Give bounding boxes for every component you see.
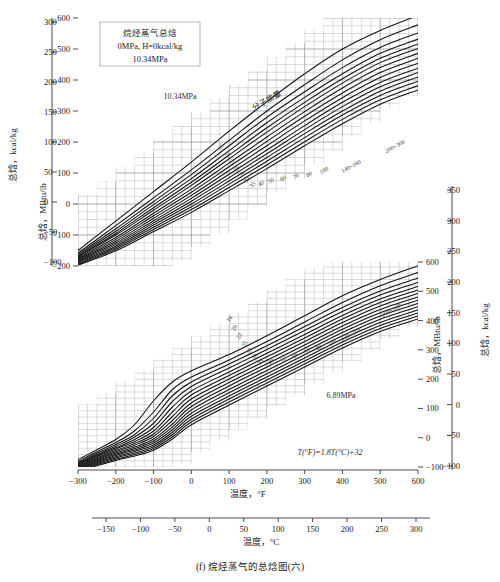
enthalpy-chart-figure: 162022252830354050607080100140~160200~30… (0, 0, 500, 582)
y-tick-label: 500 (57, 44, 70, 54)
mw-label-140~160: 140~160 (340, 159, 362, 174)
mw-label-25: 25 (240, 340, 248, 348)
y-tick-label: −100 (426, 462, 444, 472)
x-axis-c-title: 温度，°C (243, 536, 280, 547)
top-pressure-label: 10.34MPa (163, 92, 197, 101)
bottom-panel-grid (78, 262, 418, 467)
mw-label-16: 16 (225, 315, 233, 323)
y-axis-top-kcal-title: 总焓，kcal/kg (7, 128, 18, 182)
y-tick-label: −100 (52, 230, 70, 240)
y-tick-label: 50 (452, 369, 461, 379)
mw-label-35: 35 (248, 180, 256, 188)
y-tick-label: 600 (57, 13, 70, 23)
x-tick-label: 200 (341, 524, 354, 534)
y-axis-bottom-kcal: −100−50050100150200250300350 总焓，kcal/kg (442, 185, 490, 471)
y-tick-label: 100 (426, 403, 439, 413)
y-tick-label: 50 (44, 167, 53, 177)
y-tick-label: −100 (442, 461, 460, 471)
mw-label-200~300: 200~300 (384, 139, 406, 154)
mw-label-50: 50 (267, 176, 275, 184)
y-tick-label: 300 (447, 216, 460, 226)
y-tick-label: 200 (44, 77, 57, 87)
x-tick-label: 500 (374, 476, 387, 486)
info-box-line1: 烷烃蒸气总焓 (123, 28, 177, 38)
y-tick-label: 400 (57, 75, 70, 85)
x-tick-label: 300 (410, 524, 423, 534)
info-box-line2: 0MPa, H=0kcal/kg (118, 41, 184, 51)
mw-label-22: 22 (235, 332, 243, 340)
y-tick-label: 250 (447, 246, 460, 256)
x-axis-fahrenheit: −300−200−1000100200300400500600 温度，°F (69, 470, 424, 499)
x-tick-label: 100 (272, 524, 285, 534)
y-tick-label: 500 (426, 286, 439, 296)
x-tick-label: 250 (375, 524, 388, 534)
y-tick-label: 100 (447, 338, 460, 348)
y-tick-label: −200 (52, 261, 70, 271)
y-tick-label: 150 (447, 308, 460, 318)
x-tick-label: −100 (145, 476, 163, 486)
x-tick-label: −200 (107, 476, 125, 486)
mw-label-100: 100 (319, 165, 330, 175)
x-tick-label: 100 (223, 476, 236, 486)
x-tick-label: 200 (261, 476, 274, 486)
x-axis-celsius: −150−100−50050100150200250300 温度，°C (92, 518, 430, 547)
conversion-formula: T(°F)=1.8T(°C)+32 (298, 448, 363, 457)
y-tick-label: 0 (66, 199, 70, 209)
mw-label-20: 20 (230, 324, 238, 332)
mw-label-70: 70 (292, 172, 300, 180)
info-box-line3: 10.34MPa (132, 54, 167, 64)
y-tick-label: 0 (426, 433, 430, 443)
y-tick-label: 150 (44, 107, 57, 117)
x-tick-label: 50 (240, 524, 249, 534)
y-tick-label: 0 (456, 400, 460, 410)
x-tick-label: −150 (97, 524, 115, 534)
y-tick-label: 100 (57, 168, 70, 178)
chart-canvas: 162022252830354050607080100140~160200~30… (0, 0, 500, 582)
y-tick-label: 200 (57, 137, 70, 147)
mw-label-40: 40 (266, 357, 274, 365)
y-axis-top-mbtu-title: 总焓，MBtu/lb (37, 183, 48, 241)
x-tick-label: −100 (132, 524, 150, 534)
x-tick-label: −50 (168, 524, 181, 534)
y-tick-label: 200 (426, 374, 439, 384)
y-tick-label: 200 (447, 277, 460, 287)
info-box-group: 烷烃蒸气总焓 0MPa, H=0kcal/kg 10.34MPa (100, 22, 200, 66)
x-tick-label: 150 (306, 524, 319, 534)
x-tick-label: 300 (298, 476, 311, 486)
mw-label-80: 80 (315, 343, 323, 351)
y-tick-label: 600 (426, 257, 439, 267)
x-tick-label: −300 (69, 476, 87, 486)
y-axis-bottom-mbtu-title: 总焓，MBtu/lb (431, 316, 442, 374)
y-axis-bottom-mbtu: −1000100200300400500600 总焓，MBtu/lb (418, 257, 444, 472)
bottom-pressure-label: 6.89MPa (326, 391, 356, 400)
x-tick-label: 400 (336, 476, 349, 486)
x-tick-label: 600 (412, 476, 425, 486)
y-tick-label: −50 (447, 430, 460, 440)
x-axis-f-title: 温度，°F (230, 488, 266, 499)
mw-label-80: 80 (305, 170, 313, 178)
y-tick-label: 300 (44, 17, 57, 27)
mw-label-40: 40 (257, 179, 265, 187)
y-tick-label: 250 (44, 47, 57, 57)
y-axis-bottom-kcal-title: 总焓，kcal/kg (479, 303, 490, 357)
y-tick-label: 350 (447, 185, 460, 195)
figure-caption: (f) 烷烃蒸气的总焓图(六) (196, 561, 304, 573)
x-tick-label: 0 (207, 524, 211, 534)
y-tick-label: 100 (44, 137, 57, 147)
x-tick-label: 0 (189, 476, 193, 486)
y-tick-label: 300 (57, 106, 70, 116)
